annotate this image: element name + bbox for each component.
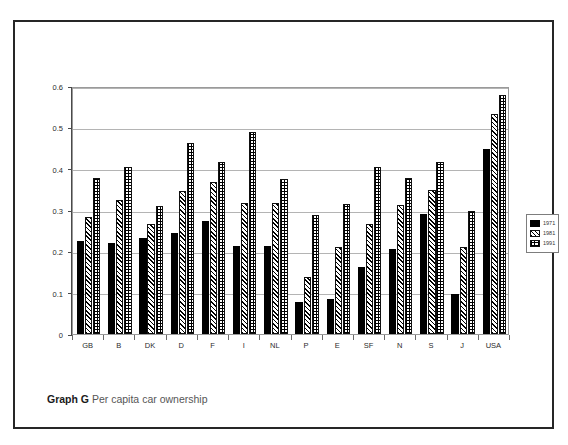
y-tick-label: 0 [23, 331, 63, 340]
bar-GB-1971 [77, 241, 84, 334]
gridline [73, 88, 508, 89]
x-tick-label-F: F [210, 341, 215, 350]
legend-item-1991: 1991 [530, 239, 555, 248]
bar-N-1981 [397, 205, 404, 334]
bar-NL-1991 [280, 179, 287, 334]
bar-D-1971 [171, 233, 178, 334]
bar-I-1971 [233, 246, 240, 334]
caption-label: Graph G [47, 393, 89, 405]
legend-swatch-1981 [530, 230, 540, 237]
bar-DK-1991 [156, 206, 163, 334]
x-tick-label-E: E [335, 341, 340, 350]
legend-swatch-1971 [530, 220, 540, 227]
bar-SF-1971 [358, 267, 365, 334]
x-tick-mark [415, 335, 416, 340]
y-tick-label: 0.1 [23, 289, 63, 298]
y-tick-label: 0.3 [23, 207, 63, 216]
bar-D-1981 [179, 191, 186, 334]
legend-label-1971: 1971 [543, 220, 555, 227]
x-tick-mark [291, 335, 292, 340]
x-tick-mark [72, 335, 73, 340]
x-tick-mark [384, 335, 385, 340]
x-tick-label-NL: NL [270, 341, 280, 350]
y-tick-label: 0.2 [23, 248, 63, 257]
bar-N-1971 [389, 249, 396, 334]
plot-area [72, 87, 509, 335]
legend-swatch-1991 [530, 240, 540, 247]
legend-item-1981: 1981 [530, 229, 555, 238]
x-tick-mark [103, 335, 104, 340]
bar-S-1971 [420, 214, 427, 334]
x-tick-mark [478, 335, 479, 340]
x-tick-mark [447, 335, 448, 340]
gridline [73, 129, 508, 130]
bar-P-1971 [295, 302, 302, 334]
x-tick-mark [197, 335, 198, 340]
x-tick-mark [509, 335, 510, 340]
bar-P-1991 [312, 215, 319, 334]
y-tick-label: 0.6 [23, 83, 63, 92]
bar-E-1971 [327, 299, 334, 334]
bar-NL-1971 [264, 246, 271, 334]
bar-USA-1971 [483, 149, 490, 334]
bar-NL-1981 [272, 203, 279, 334]
legend-item-1971: 1971 [530, 219, 555, 228]
y-tick-label: 0.4 [23, 165, 63, 174]
bar-S-1981 [428, 190, 435, 334]
bar-SF-1991 [374, 167, 381, 334]
bar-B-1971 [108, 243, 115, 334]
x-tick-label-P: P [304, 341, 309, 350]
bar-F-1981 [210, 182, 217, 334]
x-tick-mark [259, 335, 260, 340]
bar-B-1991 [124, 167, 131, 334]
x-tick-label-N: N [397, 341, 402, 350]
caption-text: Per capita car ownership [92, 393, 208, 405]
bar-J-1971 [451, 294, 458, 335]
bar-B-1981 [116, 200, 123, 334]
x-tick-mark [353, 335, 354, 340]
bar-F-1991 [218, 162, 225, 334]
bar-I-1981 [241, 203, 248, 334]
bar-F-1971 [202, 221, 209, 334]
x-tick-label-I: I [243, 341, 245, 350]
bar-J-1991 [468, 211, 475, 334]
y-axis-spine [71, 87, 72, 335]
legend-label-1991: 1991 [543, 240, 555, 247]
bar-D-1991 [187, 143, 194, 334]
bar-E-1991 [343, 204, 350, 334]
chart-plot-wrapper: 00.10.20.30.40.50.6 GBBDKDFINLPESFNSJUSA [47, 87, 531, 367]
figure-caption: Graph G Per capita car ownership [47, 393, 208, 405]
x-tick-label-S: S [428, 341, 433, 350]
bar-DK-1981 [147, 224, 154, 334]
bar-DK-1971 [139, 238, 146, 334]
bar-USA-1991 [499, 95, 506, 334]
chart-legend: 197119811991 [526, 214, 559, 253]
x-tick-label-J: J [460, 341, 464, 350]
bar-GB-1981 [85, 217, 92, 334]
bar-S-1991 [436, 162, 443, 334]
bar-J-1981 [460, 247, 467, 334]
x-tick-label-GB: GB [82, 341, 93, 350]
x-tick-label-B: B [116, 341, 121, 350]
x-tick-label-D: D [179, 341, 184, 350]
x-tick-label-SF: SF [364, 341, 374, 350]
bar-N-1991 [405, 178, 412, 334]
x-tick-mark [228, 335, 229, 340]
x-tick-mark [322, 335, 323, 340]
bar-USA-1981 [491, 114, 498, 334]
x-tick-label-USA: USA [486, 341, 501, 350]
bar-E-1981 [335, 247, 342, 334]
figure-frame: 00.10.20.30.40.50.6 GBBDKDFINLPESFNSJUSA… [13, 20, 554, 429]
x-tick-label-DK: DK [145, 341, 155, 350]
bar-P-1981 [304, 277, 311, 334]
bar-GB-1991 [93, 178, 100, 334]
x-tick-mark [166, 335, 167, 340]
y-tick-label: 0.5 [23, 124, 63, 133]
bar-I-1991 [249, 132, 256, 334]
bar-SF-1981 [366, 224, 373, 334]
x-tick-mark [134, 335, 135, 340]
legend-label-1981: 1981 [543, 230, 555, 237]
